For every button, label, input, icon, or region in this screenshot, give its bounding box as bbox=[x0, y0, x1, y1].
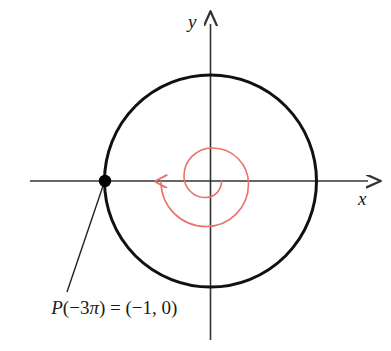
point-P-label: P(−3π) = (−1, 0) bbox=[18, 297, 201, 319]
unit-circle-figure: x y P(−3π) = (−1, 0) bbox=[0, 0, 391, 351]
point-label-p: P bbox=[50, 297, 63, 318]
point-P-marker bbox=[99, 175, 111, 187]
point-label-equals: = bbox=[105, 297, 125, 318]
point-label-argument: −3 bbox=[69, 297, 89, 318]
figure-canvas: x y P(−3π) = (−1, 0) bbox=[0, 0, 391, 351]
rotation-spiral bbox=[161, 148, 249, 227]
x-axis-label: x bbox=[357, 188, 367, 209]
point-label-coordinates: (−1, 0) bbox=[125, 297, 177, 319]
point-label-pi: π bbox=[89, 297, 99, 318]
leader-line bbox=[67, 183, 104, 292]
y-axis-label: y bbox=[186, 11, 197, 32]
